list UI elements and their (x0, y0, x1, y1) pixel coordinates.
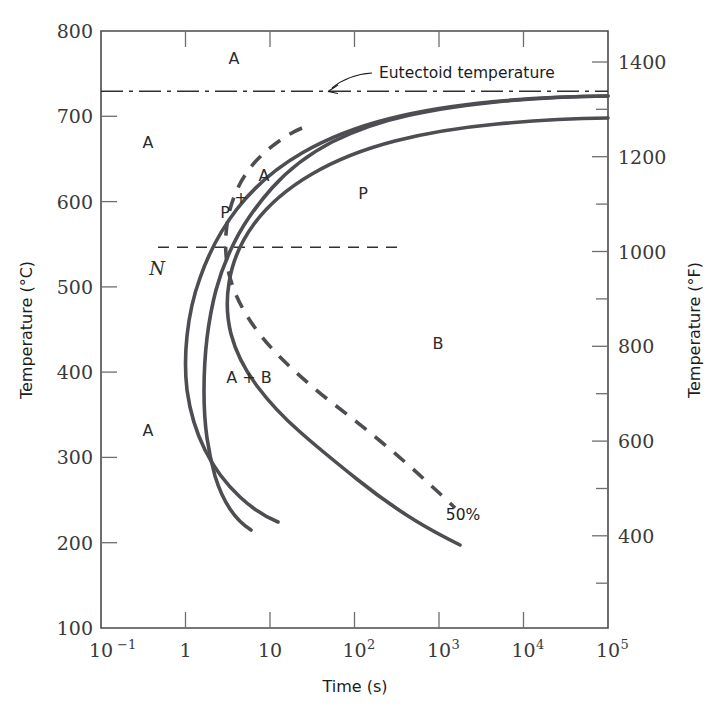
bottom-tick-base-5: 10 (511, 639, 535, 661)
right-tick-1400: 1400 (618, 51, 666, 73)
left-tick-200: 200 (57, 532, 93, 554)
right-tick-1200: 1200 (618, 146, 666, 168)
curve-transformation-start (186, 96, 609, 522)
region-label-pearlite: P (358, 184, 368, 203)
region-label-pearlite-plus-austenite-a: A (259, 166, 270, 185)
bottom-tick-base-0: 10 (89, 639, 113, 661)
bottom-tick-base-4: 10 (427, 639, 451, 661)
bottom-axis-title: Time (s) (321, 677, 387, 696)
curve-transformation-start-upper (204, 96, 608, 530)
nose-marker-label: N (148, 258, 166, 279)
left-axis-title-group: Temperature (°C) (17, 261, 36, 400)
region-label-austenite-top: A (229, 49, 240, 68)
eutectoid-leader-arrow (328, 73, 372, 94)
bottom-tick-base-1: 1 (179, 639, 191, 661)
top-axis-ticks (186, 31, 524, 47)
bottom-tick-exp-3: 2 (367, 637, 375, 652)
bottom-axis-ticks (186, 612, 524, 628)
region-label-pearlite-plus-austenite-plus: + (234, 188, 247, 207)
bottom-tick-exp-6: 5 (621, 637, 629, 652)
curve-transformation-finish (227, 118, 608, 545)
left-tick-500: 500 (57, 276, 93, 298)
right-axis-title: Temperature (°F) (685, 262, 704, 399)
bottom-tick-exp-4: 3 (452, 637, 460, 652)
ttt-diagram-figure: 800 700 600 500 400 300 200 100 Temperat… (0, 0, 710, 709)
region-label-austenite-plus-bainite: A + B (226, 368, 272, 387)
left-axis-ticks (101, 116, 117, 542)
left-tick-700: 700 (57, 105, 93, 127)
right-axis-labels: 1400 1200 1000 800 600 400 (618, 51, 666, 547)
bottom-tick-exp-5: 4 (536, 637, 544, 652)
bottom-tick-base-6: 10 (596, 639, 620, 661)
bottom-tick-exp-0: −1 (117, 637, 136, 652)
right-tick-1000: 1000 (618, 241, 666, 263)
right-tick-600: 600 (618, 430, 654, 452)
left-tick-800: 800 (57, 20, 93, 42)
left-tick-300: 300 (57, 446, 93, 468)
right-axis-title-group: Temperature (°F) (685, 262, 704, 399)
eutectoid-temperature-label: Eutectoid temperature (379, 64, 555, 82)
left-axis-title: Temperature (°C) (17, 261, 36, 400)
left-tick-100: 100 (57, 617, 93, 639)
region-label-pearlite-plus-austenite-p: P (220, 203, 230, 222)
chart-canvas: 800 700 600 500 400 300 200 100 Temperat… (0, 0, 710, 709)
region-label-austenite-bottom: A (143, 421, 154, 440)
region-label-austenite-left: A (143, 133, 154, 152)
fifty-percent-label: 50% (446, 506, 480, 524)
bottom-tick-base-3: 10 (342, 639, 366, 661)
bottom-axis-labels: 10 −1 1 10 10 2 10 3 10 4 10 5 (89, 637, 629, 661)
left-tick-400: 400 (57, 361, 93, 383)
left-axis-labels: 800 700 600 500 400 300 200 100 (57, 20, 93, 639)
left-tick-600: 600 (57, 191, 93, 213)
right-tick-800: 800 (618, 335, 654, 357)
bottom-tick-base-2: 10 (258, 639, 282, 661)
region-label-bainite: B (433, 334, 444, 353)
right-tick-400: 400 (618, 525, 654, 547)
